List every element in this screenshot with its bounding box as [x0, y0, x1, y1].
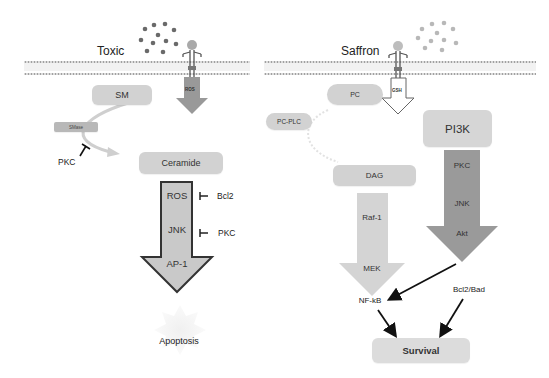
- jnk-step: JNK: [168, 224, 186, 235]
- akt-step: Akt: [456, 229, 468, 238]
- pathway-diagram-canvas: [0, 0, 549, 378]
- gsh-receptor-label: GSH: [392, 88, 402, 93]
- toxic-particles: [139, 22, 179, 55]
- apoptosis-starburst: [154, 305, 206, 355]
- pkc-inhibition-symbol: [80, 144, 90, 156]
- pc-plc-box: PC-PLC: [266, 113, 312, 130]
- pc-plc-label: PC-PLC: [277, 118, 301, 125]
- survival-box: Survival: [372, 338, 470, 363]
- pc-label: PC: [350, 91, 360, 98]
- ros-receptor-label: ROS: [185, 87, 195, 92]
- jnk-step-right: JNK: [454, 199, 469, 208]
- dag-label: DAG: [366, 171, 383, 180]
- pc-box: PC: [327, 84, 383, 105]
- mek-step: MEK: [363, 264, 380, 273]
- ros-arrow: [176, 77, 208, 114]
- pkc-inhibitor-label: PKC: [218, 228, 235, 238]
- pkc-step-right: PKC: [454, 161, 470, 170]
- sm-label: SM: [115, 90, 129, 100]
- nfkb-to-survival-arrow: [378, 310, 395, 335]
- apoptosis-label: Apoptosis: [159, 336, 199, 346]
- bcl2bad-label: Bcl2/Bad: [453, 285, 485, 294]
- smase-box: SMase: [54, 122, 98, 132]
- smase-label: SMase: [69, 125, 83, 130]
- akt-to-nfkb-arrow: [390, 264, 456, 299]
- pkc-label-left: PKC: [58, 157, 75, 167]
- pc-plc-to-dag-curve: [308, 110, 338, 162]
- bcl2-inhibitor-label: Bcl2: [217, 191, 234, 201]
- ceramide-box: Ceramide: [139, 152, 223, 174]
- pi3k-box: PI3K: [423, 110, 492, 147]
- survival-label: Survival: [403, 345, 440, 356]
- dag-box: DAG: [333, 165, 416, 186]
- ceramide-label: Ceramide: [161, 158, 200, 168]
- saffron-particles: [416, 21, 459, 53]
- toxic-title: Toxic: [97, 44, 124, 58]
- bcl2bad-to-survival-arrow: [441, 299, 463, 335]
- pi3k-label: PI3K: [445, 123, 470, 135]
- left-membrane: [24, 59, 250, 75]
- dag-arrow: [339, 193, 405, 296]
- gsh-arrow: [382, 78, 414, 114]
- ros-step: ROS: [167, 190, 188, 201]
- ap1-step: AP-1: [166, 258, 187, 269]
- saffron-title: Saffron: [341, 44, 379, 58]
- nfkb-label: NF-kB: [359, 296, 382, 305]
- raf1-step: Raf-1: [362, 213, 382, 222]
- sm-box: SM: [92, 85, 152, 105]
